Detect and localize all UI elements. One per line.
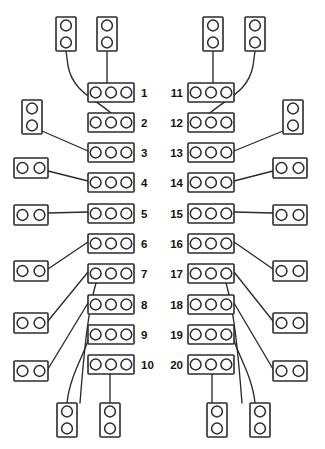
terminal-block-12-hole-2 [206, 117, 217, 128]
connector-right-6 [273, 361, 307, 381]
terminal-label-14: 14 [170, 177, 183, 189]
terminal-block-2 [88, 113, 134, 132]
connector-left-3-hole-2 [34, 210, 45, 221]
connector-top-right-b [245, 17, 265, 51]
connector-right-4-hole-2 [293, 266, 304, 277]
terminal-block-4 [88, 173, 134, 192]
connector-top-left-b-hole-2 [102, 37, 113, 48]
terminal-block-9-hole-2 [106, 329, 117, 340]
terminal-block-14-hole-3 [221, 177, 232, 188]
terminal-block-11-hole-3 [221, 87, 232, 98]
connector-top-right-a-hole-2 [208, 37, 219, 48]
terminal-block-3 [88, 143, 134, 162]
connector-top-left-a-hole-1 [61, 20, 72, 31]
connector-bottom-right-b-hole-2 [255, 423, 266, 434]
terminal-block-1-hole-3 [121, 87, 132, 98]
terminal-block-12-hole-1 [190, 117, 201, 128]
terminal-block-17-hole-1 [190, 268, 201, 279]
lead-row-9-to-bottom-left-a [67, 334, 90, 403]
terminal-block-6 [88, 234, 134, 253]
terminal-block-14-hole-1 [190, 177, 201, 188]
terminal-label-1: 1 [141, 87, 148, 99]
terminal-block-19-hole-2 [206, 329, 217, 340]
terminal-block-2-hole-2 [106, 117, 117, 128]
terminal-block-18-hole-3 [221, 299, 232, 310]
terminal-block-8 [88, 295, 134, 314]
terminal-block-18-hole-2 [206, 299, 217, 310]
connector-top-right-a-hole-1 [208, 20, 219, 31]
terminal-block-3-hole-1 [90, 147, 101, 158]
terminal-block-10-hole-2 [106, 359, 117, 370]
lead-right-4-to-row-16 [234, 242, 273, 269]
terminal-block-15-hole-3 [221, 208, 232, 219]
connector-left-1 [22, 100, 42, 134]
connector-top-left-a-hole-2 [61, 37, 72, 48]
connector-bottom-left-a-hole-2 [62, 423, 73, 434]
terminal-block-14 [188, 173, 234, 192]
connector-top-right-b-hole-1 [250, 20, 261, 31]
connector-left-2-hole-1 [17, 163, 28, 174]
connector-left-4-hole-1 [17, 266, 28, 277]
connector-left-3-hole-1 [17, 210, 28, 221]
terminal-block-19-hole-3 [221, 329, 232, 340]
lead-left-1-to-row-3 [42, 131, 88, 151]
lead-left-3-to-row-5 [48, 212, 88, 213]
terminal-block-17-hole-2 [206, 268, 217, 279]
connector-top-right-b-hole-2 [250, 37, 261, 48]
connector-right-2 [273, 158, 307, 178]
terminal-label-6: 6 [141, 238, 147, 250]
connector-left-4 [14, 261, 48, 281]
terminal-block-18-hole-1 [190, 299, 201, 310]
terminal-block-18 [188, 295, 234, 314]
terminal-block-7-hole-1 [90, 268, 101, 279]
connector-left-3 [14, 205, 48, 225]
terminal-block-10-hole-3 [121, 359, 132, 370]
connector-left-6-hole-1 [17, 366, 28, 377]
connector-left-1-hole-1 [27, 103, 38, 114]
terminal-block-19-hole-1 [190, 329, 201, 340]
terminal-block-4-hole-2 [106, 177, 117, 188]
connector-bottom-left-b-hole-1 [105, 406, 116, 417]
terminal-block-6-hole-3 [121, 238, 132, 249]
terminal-block-16 [188, 234, 234, 253]
terminal-block-13 [188, 143, 234, 162]
terminal-block-11-hole-2 [206, 87, 217, 98]
lead-wires-layer [42, 51, 283, 403]
connector-right-1 [283, 100, 303, 134]
connector-left-6 [14, 361, 48, 381]
terminal-block-20-hole-2 [206, 359, 217, 370]
terminal-block-6-hole-2 [106, 238, 117, 249]
connector-right-3-hole-2 [293, 210, 304, 221]
connector-blocks-layer [14, 17, 307, 437]
connector-bottom-right-b-hole-1 [255, 406, 266, 417]
terminal-block-13-hole-2 [206, 147, 217, 158]
lead-left-2-to-row-4 [48, 171, 88, 181]
terminal-block-2-hole-1 [90, 117, 101, 128]
terminal-block-4-hole-3 [121, 177, 132, 188]
connector-right-4-hole-1 [276, 266, 287, 277]
connector-right-1-hole-1 [288, 103, 299, 114]
terminal-block-13-hole-1 [190, 147, 201, 158]
terminal-block-20 [188, 355, 234, 374]
terminal-block-1-hole-1 [90, 87, 101, 98]
connector-right-6-hole-1 [276, 366, 287, 377]
connector-left-5-hole-2 [34, 318, 45, 329]
terminal-block-4-hole-1 [90, 177, 101, 188]
connector-diagram: 1234567891011121314151617181920 [0, 0, 325, 449]
terminal-block-5-hole-2 [106, 208, 117, 219]
connector-right-5 [273, 313, 307, 333]
terminal-label-8: 8 [141, 299, 148, 311]
connector-left-5 [14, 313, 48, 333]
terminal-block-15-hole-2 [206, 208, 217, 219]
terminal-block-12 [188, 113, 234, 132]
terminal-block-5-hole-1 [90, 208, 101, 219]
terminal-block-3-hole-3 [121, 147, 132, 158]
connector-right-2-hole-1 [276, 163, 287, 174]
terminal-block-5-hole-3 [121, 208, 132, 219]
terminal-block-15 [188, 204, 234, 223]
connector-bottom-right-a-hole-2 [212, 423, 223, 434]
terminal-label-3: 3 [141, 147, 147, 159]
terminal-label-11: 11 [171, 87, 184, 99]
connector-bottom-right-a [207, 403, 227, 437]
connector-right-3 [273, 205, 307, 225]
